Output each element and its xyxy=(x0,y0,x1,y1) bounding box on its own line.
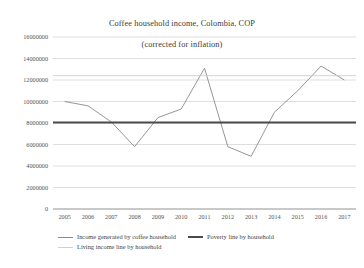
legend-item-income[interactable]: Income generated by coffee household xyxy=(58,232,176,242)
y-axis-tick-label: 8000000 xyxy=(26,119,48,126)
chart-container: Coffee household income, Colombia, COP (… xyxy=(0,0,364,268)
legend-swatch-poverty-icon xyxy=(188,236,203,238)
y-axis-tick-label: 6000000 xyxy=(26,141,48,148)
x-axis-tick-label: 2011 xyxy=(198,213,210,220)
data-series-group xyxy=(53,66,356,156)
x-axis-tick-label: 2009 xyxy=(152,213,164,220)
x-axis-tick-label: 2008 xyxy=(128,213,140,220)
legend-label-poverty: Poverty line by household xyxy=(207,232,274,242)
legend-swatch-living-icon xyxy=(58,247,73,248)
y-axis-tick-label: 2000000 xyxy=(26,184,48,191)
y-axis-tick-label: 4000000 xyxy=(26,162,48,169)
legend-item-poverty[interactable]: Poverty line by household xyxy=(188,232,274,242)
x-axis-tick-labels: 2005200620072008200920102011201220132014… xyxy=(58,213,350,220)
y-axis-tick-label: 10000000 xyxy=(23,98,48,105)
x-axis-tick-label: 2016 xyxy=(315,213,327,220)
x-axis-tick-label: 2013 xyxy=(245,213,257,220)
y-axis-tick-labels: 0200000040000006000000800000010000000120… xyxy=(23,33,48,212)
legend-label-income: Income generated by coffee household xyxy=(77,232,176,242)
y-axis-tick-label: 16000000 xyxy=(23,33,48,40)
x-axis-tick-label: 2015 xyxy=(292,213,304,220)
y-axis-tick-label: 14000000 xyxy=(23,55,48,62)
chart-legend: Income generated by coffee household Pov… xyxy=(58,232,358,252)
x-axis-tick-label: 2017 xyxy=(338,213,350,220)
y-axis-tick-label: 0 xyxy=(45,205,48,212)
legend-item-living[interactable]: Living income line by household xyxy=(58,242,162,252)
legend-row-1: Income generated by coffee household Pov… xyxy=(58,232,358,242)
y-axis-tick-label: 12000000 xyxy=(23,76,48,83)
legend-label-living: Living income line by household xyxy=(77,242,162,252)
legend-row-2: Living income line by household xyxy=(58,242,358,252)
plot-area: 0200000040000006000000800000010000000120… xyxy=(0,0,364,268)
x-axis-tick-label: 2006 xyxy=(82,213,94,220)
x-axis-tick-label: 2014 xyxy=(268,213,280,220)
x-axis-tick-label: 2005 xyxy=(58,213,70,220)
series-line-0 xyxy=(65,66,345,156)
x-axis-tick-label: 2012 xyxy=(222,213,234,220)
x-axis-tick-label: 2010 xyxy=(175,213,187,220)
legend-swatch-income-icon xyxy=(58,237,73,238)
x-axis-tick-label: 2007 xyxy=(105,213,117,220)
